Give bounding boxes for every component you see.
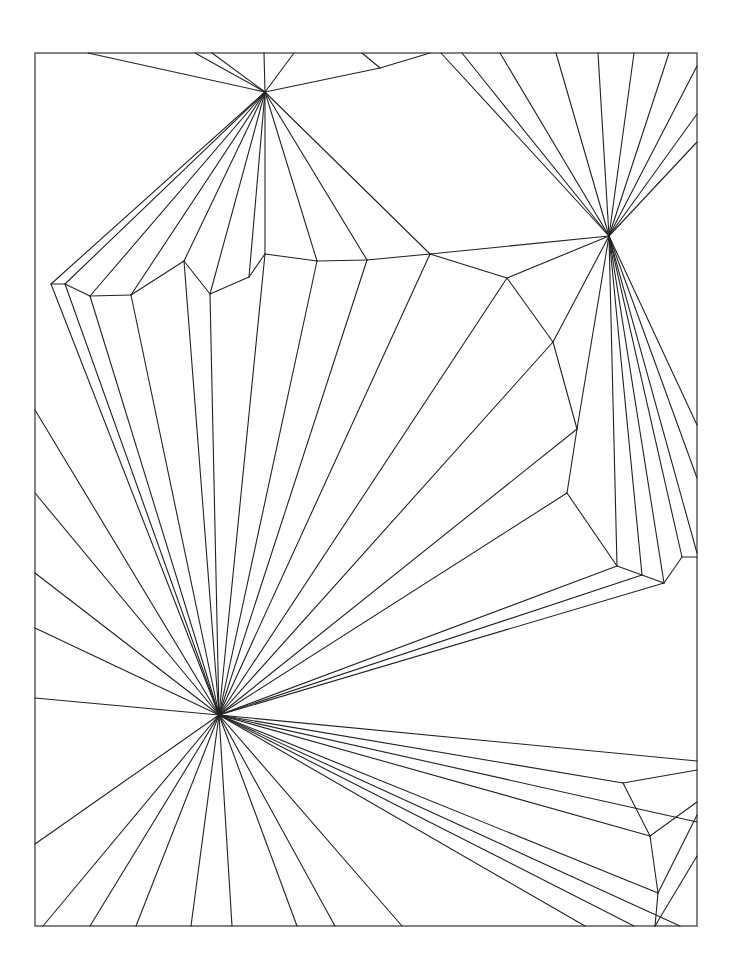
edge-line <box>507 278 553 342</box>
edge-line <box>567 493 617 566</box>
edge-line <box>500 53 609 236</box>
edge-line <box>664 557 682 583</box>
edge-line <box>219 715 623 783</box>
fan-triangulation-diagram <box>0 0 737 974</box>
edge-line <box>219 715 680 926</box>
edge-line <box>219 342 553 715</box>
edge-line <box>609 53 669 236</box>
edge-line <box>553 342 577 429</box>
edge-line <box>219 715 658 893</box>
edge-line <box>219 278 507 715</box>
edge-line <box>556 53 609 236</box>
edge-line <box>609 114 697 236</box>
edge-line <box>264 53 265 92</box>
edge-line <box>362 53 380 68</box>
edge-line <box>507 236 609 278</box>
edge-line <box>219 715 697 822</box>
edge-line <box>265 68 380 92</box>
edge-line <box>609 53 634 236</box>
edge-line <box>642 575 664 583</box>
edge-line <box>51 92 265 284</box>
edge-line <box>35 698 219 715</box>
edge-line <box>650 836 658 893</box>
edge-line <box>219 429 577 715</box>
edge-line <box>219 715 402 926</box>
edge-line <box>131 261 184 295</box>
edge-line <box>195 53 265 92</box>
edge-line <box>219 575 642 715</box>
edge-line <box>265 53 294 92</box>
edge-line <box>609 236 664 583</box>
edge-line <box>577 236 609 429</box>
edge-line <box>219 715 297 926</box>
edge-line <box>598 53 609 236</box>
edge-line <box>609 142 697 236</box>
edge-line <box>462 53 609 236</box>
edge-line <box>367 254 430 260</box>
edge-line <box>609 236 682 557</box>
edge-line <box>90 715 219 926</box>
edge-line <box>609 236 697 425</box>
edge-line <box>609 236 697 478</box>
edge-line <box>609 66 697 236</box>
edge-line <box>219 715 650 836</box>
edge-line <box>90 295 131 296</box>
edge-line <box>650 802 697 836</box>
edge-line <box>35 628 219 715</box>
edge-line <box>609 236 642 575</box>
edge-line <box>219 715 634 926</box>
edge-line <box>430 236 609 254</box>
edge-line <box>136 715 219 926</box>
edge-line <box>191 715 219 926</box>
edge-line <box>219 261 317 715</box>
edge-line <box>658 815 697 893</box>
diagram-frame <box>35 53 697 926</box>
edge-line <box>184 261 210 294</box>
edge-line <box>380 53 430 68</box>
edge-line <box>655 856 697 926</box>
edge-line <box>219 715 335 926</box>
edge-line <box>90 296 219 715</box>
edge-line <box>65 92 265 284</box>
edge-line <box>317 260 367 261</box>
edge-line <box>35 493 219 715</box>
edge-line <box>35 410 219 715</box>
edge-line <box>219 583 664 715</box>
edge-line <box>219 715 697 761</box>
edge-line <box>609 236 617 566</box>
edge-line <box>567 429 577 493</box>
edge-group <box>35 53 697 926</box>
edge-line <box>265 254 317 261</box>
edge-line <box>623 783 650 836</box>
edge-line <box>219 715 232 926</box>
edge-line <box>609 236 697 553</box>
edge-line <box>219 254 430 715</box>
edge-line <box>623 770 697 783</box>
edge-line <box>617 566 642 575</box>
edge-line <box>210 277 249 294</box>
edge-line <box>441 53 609 236</box>
edge-line <box>430 254 507 278</box>
edge-line <box>219 715 585 926</box>
edge-line <box>265 92 367 260</box>
